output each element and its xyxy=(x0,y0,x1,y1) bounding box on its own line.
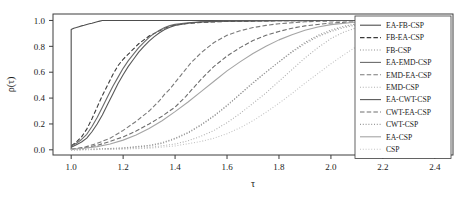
x-tick-label: 1.8 xyxy=(273,162,285,172)
x-axis-title: τ xyxy=(251,178,255,189)
x-tick-label: 2.2 xyxy=(377,162,388,172)
x-tick-label: 1.0 xyxy=(66,162,78,172)
y-tick-label: 1.0 xyxy=(34,16,46,26)
x-tick-label: 2.0 xyxy=(325,162,337,172)
x-tick-label: 1.6 xyxy=(221,162,233,172)
x-tick-label: 2.4 xyxy=(429,162,441,172)
x-tick-label: 1.4 xyxy=(169,162,181,172)
legend-label-ea-csp: EA-CSP xyxy=(386,133,412,142)
y-tick-label: 0.8 xyxy=(34,42,46,52)
legend-label-cwt-ea-csp: CWT-EA-CSP xyxy=(386,108,431,117)
y-tick-label: 0.6 xyxy=(34,67,46,77)
legend-label-csp: CSP xyxy=(386,145,400,154)
legend-label-emd-csp: EMD-CSP xyxy=(386,83,419,92)
y-axis-title: ρ(τ) xyxy=(5,77,17,93)
y-tick-label: 0.2 xyxy=(34,119,45,129)
legend-label-ea-fb-csp: EA-FB-CSP xyxy=(386,21,424,30)
y-tick-label: 0.0 xyxy=(34,145,46,155)
legend-label-fb-csp: FB-CSP xyxy=(386,46,411,55)
legend: EA-FB-CSPFB-EA-CSPFB-CSPEA-EMD-CSPEMD-EA… xyxy=(355,16,451,158)
legend-label-ea-cwt-csp: EA-CWT-CSP xyxy=(386,95,431,104)
legend-label-ea-emd-csp: EA-EMD-CSP xyxy=(386,58,432,67)
y-tick-label: 0.4 xyxy=(34,93,46,103)
legend-label-fb-ea-csp: FB-EA-CSP xyxy=(386,33,424,42)
legend-label-cwt-csp: CWT-CSP xyxy=(386,120,418,129)
x-tick-label: 1.2 xyxy=(118,162,129,172)
legend-label-emd-ea-csp: EMD-EA-CSP xyxy=(386,71,432,80)
performance-profile-figure: 1.01.21.41.61.82.02.22.40.00.20.40.60.81… xyxy=(0,0,467,200)
y-axis: 0.00.20.40.60.81.0 xyxy=(34,16,53,155)
performance-profile-chart: 1.01.21.41.61.82.02.22.40.00.20.40.60.81… xyxy=(0,0,467,200)
